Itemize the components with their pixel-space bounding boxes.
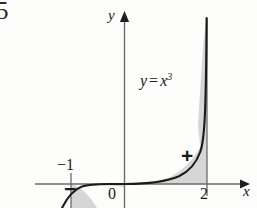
tick-label-neg-one: −1 — [57, 157, 74, 173]
cubic-curve-figure — [0, 0, 257, 208]
tick-label-two: 2 — [200, 186, 208, 202]
curve-equation-label: y=x3 — [140, 72, 172, 89]
region-sign-negative: − — [64, 178, 76, 199]
problem-number: 5 — [0, 0, 9, 23]
x-axis-label: x — [243, 184, 250, 199]
equation-equals: = — [147, 72, 160, 89]
region-sign-positive: + — [181, 145, 193, 166]
equation-exponent: 3 — [167, 71, 172, 82]
y-axis-arrowhead — [120, 11, 129, 22]
tick-label-origin: 0 — [108, 186, 116, 202]
figure-canvas: 5 y x 0 −1 2 y=x3 + − — [0, 0, 257, 208]
y-axis-label: y — [108, 8, 115, 23]
